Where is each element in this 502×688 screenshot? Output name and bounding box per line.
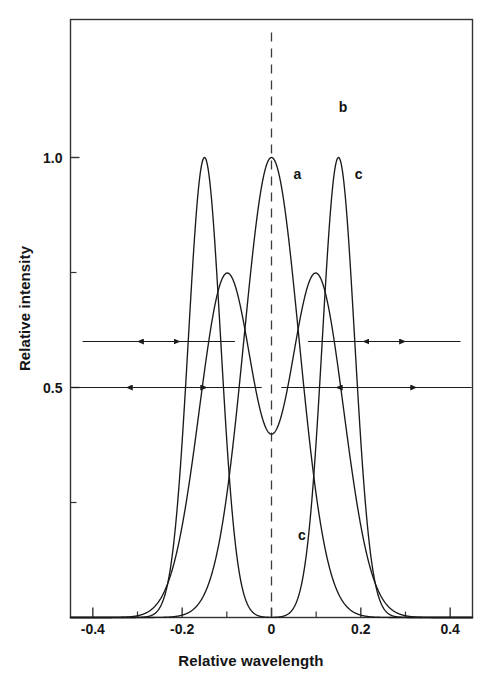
curve-label-c-2: c [355, 166, 363, 182]
curve-label-b-0: b [339, 99, 348, 115]
curve-label-c-3: c [298, 527, 306, 543]
y-tick-label: 1.0 [23, 150, 63, 166]
plot-frame [71, 20, 473, 618]
spectral-resolution-plot [0, 0, 502, 688]
x-tick-label: 0.2 [351, 621, 370, 637]
curve-label-a-1: a [294, 166, 302, 182]
x-tick-label: 0.4 [440, 621, 459, 637]
x-tick-label: -0.4 [81, 621, 105, 637]
y-tick-label: 0.5 [23, 380, 63, 396]
plot-border [71, 20, 473, 618]
x-tick-label: -0.2 [170, 621, 194, 637]
x-tick-label: 0 [268, 621, 276, 637]
x-axis-label: Relative wavelength [0, 652, 502, 669]
y-axis-label: Relative intensity [16, 209, 33, 409]
